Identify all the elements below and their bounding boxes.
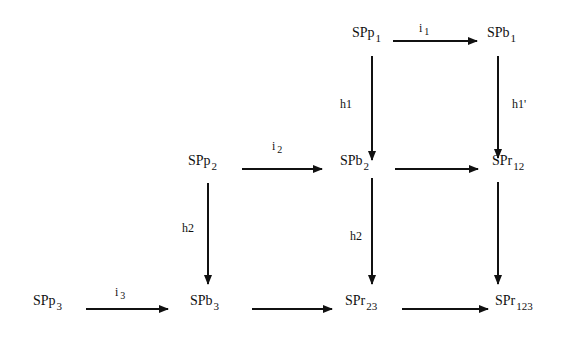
node-subscript: 1 [511, 32, 517, 44]
node-spr23: SPr23 [345, 294, 377, 308]
edge-label-subscript: 2 [277, 144, 282, 155]
edge-label-subscript: 3 [120, 290, 125, 301]
node-spr123: SPr123 [495, 294, 533, 308]
node-spb3: SPb3 [190, 294, 219, 308]
node-base-label: SPb [340, 153, 363, 168]
edge-label: h2 [182, 222, 194, 234]
edge-label-text: h2 [182, 221, 194, 235]
node-base-label: SPp [352, 25, 375, 40]
edge-label-subscript: 1 [424, 26, 429, 37]
edge-label: h1 [340, 98, 352, 110]
node-subscript: 2 [212, 160, 218, 172]
node-subscript: 123 [516, 300, 533, 312]
edge-label: h2 [350, 230, 362, 242]
node-subscript: 3 [214, 300, 220, 312]
edge-label: i3 [115, 286, 125, 299]
node-subscript: 2 [364, 160, 370, 172]
node-spp1: SPp1 [352, 26, 381, 40]
node-spb2: SPb2 [340, 154, 369, 168]
node-base-label: SPb [190, 293, 213, 308]
edge-label: h1' [512, 98, 526, 110]
node-subscript: 1 [376, 32, 382, 44]
node-spp2: SPp2 [188, 154, 217, 168]
edge-label: i1 [419, 22, 429, 35]
arrows-layer [0, 0, 573, 340]
edge-label-text: h2 [350, 229, 362, 243]
edge-label-text: h1' [512, 97, 526, 111]
node-base-label: SPr [495, 293, 515, 308]
node-subscript: 12 [513, 160, 524, 172]
node-subscript: 3 [57, 300, 63, 312]
node-base-label: SPr [492, 153, 512, 168]
node-base-label: SPp [188, 153, 211, 168]
edge-label: i2 [272, 140, 282, 153]
node-subscript: 23 [366, 300, 377, 312]
edge-label-text: h1 [340, 97, 352, 111]
node-spp3: SPp3 [33, 294, 62, 308]
edge-label-text: i [272, 139, 275, 153]
node-spb1: SPb1 [487, 26, 516, 40]
commutative-diagram: SPp1SPb1SPp2SPb2SPr12SPp3SPb3SPr23SPr123… [0, 0, 573, 340]
node-base-label: SPb [487, 25, 510, 40]
node-base-label: SPr [345, 293, 365, 308]
edge-label-text: i [115, 285, 118, 299]
node-base-label: SPp [33, 293, 56, 308]
edge-label-text: i [419, 21, 422, 35]
node-spr12: SPr12 [492, 154, 524, 168]
